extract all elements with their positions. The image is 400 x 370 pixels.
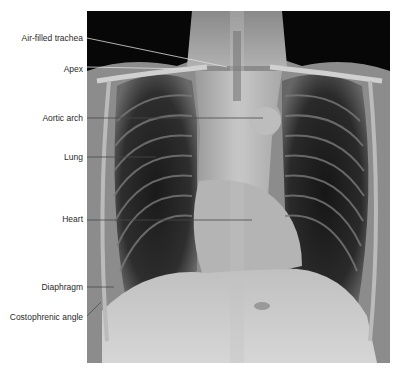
label-costophrenic-angle: Costophrenic angle xyxy=(10,312,83,322)
label-trachea: Air-filled trachea xyxy=(22,33,83,43)
label-aortic-arch: Aortic arch xyxy=(42,113,83,123)
label-diaphragm: Diaphragm xyxy=(41,282,83,292)
label-lung: Lung xyxy=(64,152,83,162)
xray-graphic xyxy=(87,11,390,363)
label-apex: Apex xyxy=(64,64,83,74)
label-heart: Heart xyxy=(62,214,83,224)
chest-xray-image xyxy=(87,11,390,363)
